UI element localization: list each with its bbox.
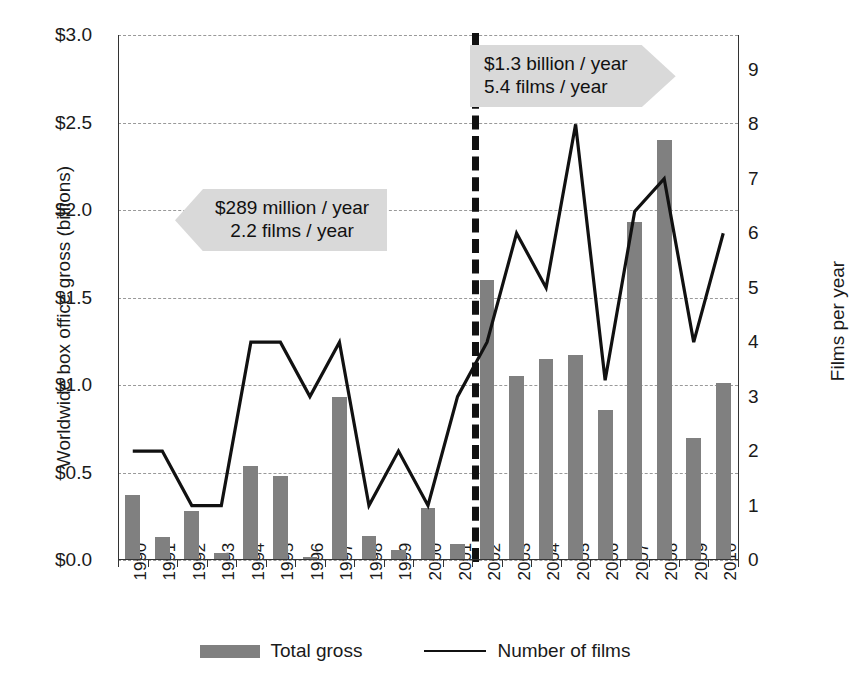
x-axis-tickmark [177,560,178,567]
x-axis-tickmark [472,560,473,567]
x-axis-tickmark [295,560,296,567]
era-divider-line [472,33,479,562]
y-axis-right-tick-label: 7 [748,169,788,188]
x-axis-baseline [118,559,738,560]
annotation-post-2001-line-1: $1.3 billion / year [484,52,628,75]
x-axis-tickmark [148,560,149,567]
x-axis-tickmark [679,560,680,567]
x-axis-tickmark [325,560,326,567]
x-axis-tickmark [207,560,208,567]
x-axis-tickmark [384,560,385,567]
y-axis-right-tick-label: 9 [748,60,788,79]
y-axis-right-tick-label: 3 [748,387,788,406]
x-axis-tickmark [413,560,414,567]
y-axis-left-tick-label: $0.5 [22,463,92,482]
y-axis-right-tick-label: 6 [748,223,788,242]
plot-area [118,35,738,560]
y-axis-left-tick-label: $1.0 [22,375,92,394]
legend-label-total-gross: Total gross [271,640,363,662]
x-axis-tickmark [738,560,739,567]
annotation-post-2001-line-2: 5.4 films / year [484,75,628,98]
x-axis-tickmark [266,560,267,567]
y-axis-left-spine [118,35,119,560]
y-axis-right-title: Films per year [827,171,849,471]
x-axis-tickmark [354,560,355,567]
y-axis-right-tick-label: 4 [748,332,788,351]
line-path [133,124,723,505]
x-axis-tickmark [502,560,503,567]
x-axis-tickmark [620,560,621,567]
x-axis-tickmark [443,560,444,567]
y-axis-left-tick-label: $0.0 [22,550,92,569]
y-axis-right-tick-label: 2 [748,441,788,460]
x-axis-tickmark [708,560,709,567]
line-series-number-of-films [118,35,738,560]
legend-item-total-gross: Total gross [200,640,363,662]
x-axis-tickmark [118,560,119,567]
line-swatch-icon [424,650,486,652]
legend-item-number-of-films: Number of films [424,640,630,662]
annotation-pre-2002-line-1: $289 million / year [215,196,369,219]
y-axis-right-tick-label: 0 [748,550,788,569]
annotation-pre-2002-average: $289 million / year 2.2 films / year [175,189,387,251]
bar-swatch-icon [200,645,260,658]
y-axis-left-tick-label: $2.5 [22,113,92,132]
annotation-pre-2002-line-2: 2.2 films / year [215,219,369,242]
x-axis-tickmark [649,560,650,567]
annotation-post-2001-average: $1.3 billion / year 5.4 films / year [470,45,676,107]
y-axis-left-tick-label: $1.5 [22,288,92,307]
y-axis-left-tick-label: $2.0 [22,200,92,219]
x-axis-tickmark [531,560,532,567]
x-axis-tickmark [236,560,237,567]
y-axis-right-tick-label: 1 [748,496,788,515]
y-axis-right-tick-label: 5 [748,278,788,297]
y-axis-right-tick-label: 8 [748,114,788,133]
legend-label-number-of-films: Number of films [497,640,630,662]
y-axis-right-spine [738,35,739,560]
gridline [118,560,738,561]
x-axis-tickmark [590,560,591,567]
x-axis-tickmark [561,560,562,567]
y-axis-left-tick-label: $3.0 [22,25,92,44]
chart-legend: Total gross Number of films [0,640,830,662]
